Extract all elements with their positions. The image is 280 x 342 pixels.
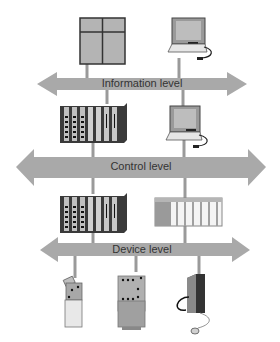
drive-unit-icon: [177, 274, 209, 334]
information-level-label: Information level: [97, 77, 187, 89]
modular-plc-rack-icon: [60, 193, 127, 233]
contactor-icon: [118, 276, 145, 330]
control-level-label: Control level: [96, 160, 186, 172]
limit-switch-icon: [63, 276, 82, 327]
server-cabinet-icon: [80, 18, 125, 64]
computer-icon: [168, 18, 211, 60]
computer-icon: [166, 106, 207, 148]
modular-plc-rack-icon: [60, 103, 127, 143]
compact-plc-icon: [155, 198, 222, 226]
device-level-label: Device level: [102, 243, 182, 255]
